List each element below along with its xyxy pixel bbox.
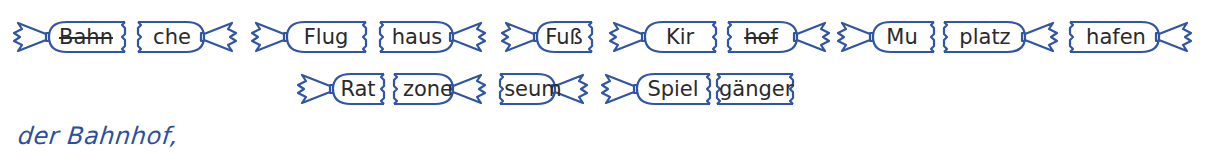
word-part-haus: haus [384, 20, 450, 54]
word-part-flug: Flug [290, 20, 362, 54]
word-part-spiel: Spiel [640, 72, 706, 106]
word-part-gaenger: gänger [719, 72, 791, 106]
candy-left-flug: Flug [250, 20, 368, 54]
word-part-rat: Rat [334, 72, 382, 106]
candy-left-fuss: Fuß [500, 20, 594, 54]
candy-left-spiel: Spiel [600, 72, 712, 106]
word-part-che: che [142, 20, 202, 54]
word-part-kir: Kir [648, 20, 712, 54]
word-part-fuss: Fuß [538, 20, 590, 54]
candy-left-bahn: Bahn [12, 20, 127, 54]
word-part-hafen: hafen [1076, 20, 1156, 54]
candy-middle-gaenger: gänger [715, 72, 795, 106]
handwritten-answer: der Bahnhof, [17, 122, 181, 150]
candy-right-platz: platz [942, 20, 1062, 54]
word-part-platz: platz [948, 20, 1022, 54]
candy-right-zone: zone [392, 72, 490, 106]
word-part-zone: zone [398, 72, 458, 106]
word-part-seum: seum [502, 72, 564, 106]
candy-right-hof: hof [726, 20, 834, 54]
candy-left-rat: Rat [296, 72, 386, 106]
candy-right-hafen: hafen [1068, 20, 1196, 54]
candy-left-mu: Mu [836, 20, 936, 54]
word-part-hof: hof [732, 20, 790, 54]
word-part-mu: Mu [874, 20, 930, 54]
candy-right-seum: seum [498, 72, 592, 106]
word-part-bahn: Bahn [50, 20, 122, 54]
candy-right-haus: haus [378, 20, 490, 54]
candy-left-kir: Kir [608, 20, 718, 54]
candy-right-che: che [136, 20, 241, 54]
